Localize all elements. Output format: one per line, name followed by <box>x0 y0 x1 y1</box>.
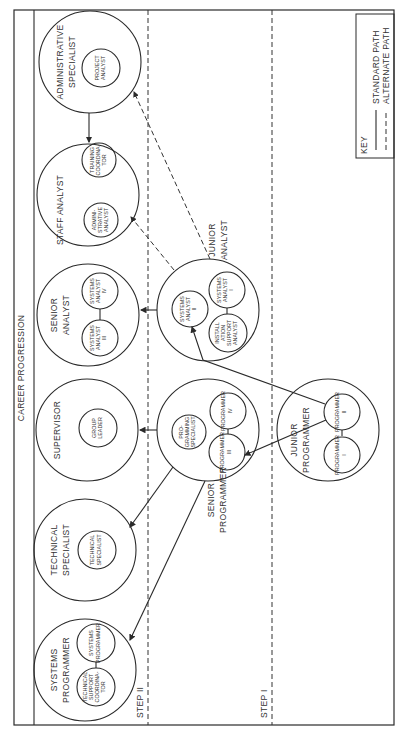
svg-text:SPECIALIST: SPECIALIST <box>67 36 77 88</box>
group-junior-analyst: JUNIOR ANALYST SYSTEMS ANALYST II SYSTEM… <box>157 220 259 361</box>
svg-text:TOR: TOR <box>101 154 107 165</box>
career-progression-diagram: CAREER PROGRESSION STEP II STEP I KEY ST… <box>0 0 404 737</box>
svg-text:SUPERVISOR: SUPERVISOR <box>52 401 62 460</box>
svg-text:SYSTEMS: SYSTEMS <box>88 630 94 656</box>
svg-text:PROGRAMMER: PROGRAMMER <box>219 432 225 472</box>
svg-text:TOR: TOR <box>100 681 106 692</box>
outer-frame <box>14 10 394 725</box>
svg-text:ANALYST: ANALYST <box>232 320 238 345</box>
svg-text:ANALYST: ANALYST <box>100 55 106 80</box>
group-systems-programmer: SYSTEMS PROGRAMMER SYSTEMS PROGRAMMER TE… <box>34 619 136 721</box>
group-technical-specialist: TECHNICAL SPECIALIST TECHNICAL SPECIALIS… <box>34 499 136 601</box>
svg-text:PROGRAMMER: PROGRAMMER <box>334 435 340 475</box>
svg-text:I: I <box>341 454 347 456</box>
diagram-title: CAREER PROGRESSION <box>16 315 26 421</box>
legend-title: KEY <box>359 136 369 154</box>
svg-text:PROGRAMMER: PROGRAMMER <box>95 623 101 663</box>
svg-text:JUNIOR: JUNIOR <box>207 223 217 256</box>
svg-text:ANALYST: ANALYST <box>219 220 229 260</box>
svg-text:III: III <box>226 450 232 455</box>
svg-text:SENIOR: SENIOR <box>49 298 59 332</box>
group-junior-programmer: JUNIOR PROGRAMMER PROGRAMMER II PROGRAMM… <box>277 379 379 481</box>
svg-text:SPECIALIST: SPECIALIST <box>190 416 196 448</box>
svg-text:LEADER: LEADER <box>97 417 103 439</box>
svg-text:ADMINISTRATIVE: ADMINISTRATIVE <box>55 25 65 100</box>
svg-text:SPECIALIST: SPECIALIST <box>61 524 71 576</box>
svg-text:IV: IV <box>101 288 107 293</box>
svg-text:PROGRAMMER: PROGRAMMER <box>218 467 228 533</box>
step-ii-label: STEP II <box>135 687 145 718</box>
path-prog-ii-to-prog-iii <box>245 420 326 455</box>
svg-text:I: I <box>228 289 234 291</box>
svg-text:STAFF ANALYST: STAFF ANALYST <box>55 175 65 245</box>
legend-standard: STANDARD PATH <box>371 30 381 104</box>
path-jr-analyst-to-admin-alt <box>134 92 210 259</box>
svg-text:TECHNICAL: TECHNICAL <box>89 535 95 566</box>
path-prog-ii-to-sys-analyst-ii <box>192 327 325 404</box>
group-senior-analyst: SENIOR ANALYST SYSTEMS ANALYST IV SYSTEM… <box>37 264 139 366</box>
path-jr-analyst-to-staff-alt <box>131 217 174 270</box>
svg-text:TECHNICAL: TECHNICAL <box>49 525 59 576</box>
path-sr-prog-to-tech-specialist <box>130 467 173 527</box>
legend-alternate: ALTERNATE PATH <box>381 27 391 104</box>
svg-text:SENIOR: SENIOR <box>206 483 216 517</box>
path-sr-prog-to-sys-prog <box>130 481 205 640</box>
svg-text:IV: IV <box>227 408 233 413</box>
group-staff-analyst: STAFF ANALYST TRAINING COORDINA- TOR ADM… <box>37 143 139 246</box>
svg-text:III: III <box>101 336 107 341</box>
group-administrative-specialist: ADMINISTRATIVE SPECIALIST PROJECT ANALYS… <box>39 11 141 113</box>
svg-text:II: II <box>341 411 347 414</box>
step-i-label: STEP I <box>259 689 269 718</box>
svg-text:JUNIOR: JUNIOR <box>289 423 299 456</box>
svg-text:PROGRAMMER: PROGRAMMER <box>61 637 71 703</box>
legend: KEY STANDARD PATH ALTERNATE PATH <box>356 14 394 158</box>
svg-text:SYSTEMS: SYSTEMS <box>49 649 59 692</box>
group-supervisor: SUPERVISOR GROUP LEADER <box>36 379 138 481</box>
svg-text:PROGRAMMER: PROGRAMMER <box>301 407 311 473</box>
svg-text:SPECIALIST: SPECIALIST <box>96 534 102 566</box>
svg-text:II: II <box>191 308 197 311</box>
group-senior-programmer: SENIOR PROGRAMMER PRO- GRAMMING SPECIALI… <box>157 379 259 533</box>
svg-text:PROGRAMMER: PROGRAMMER <box>334 392 340 432</box>
svg-text:ANALYST: ANALYST <box>61 295 71 335</box>
svg-text:PROGRAMMER: PROGRAMMER <box>220 391 226 431</box>
svg-text:ANALYST: ANALYST <box>103 207 109 232</box>
